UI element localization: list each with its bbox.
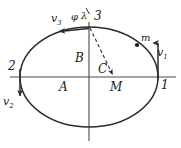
label-angle-phi: φ <box>71 12 78 22</box>
label-velocity-v1-sub: 1 <box>163 53 167 61</box>
label-point-b: B <box>75 52 84 64</box>
label-vertex-top: 3 <box>94 10 102 22</box>
orbit-diagram-canvas <box>0 0 181 148</box>
label-velocity-v3-sub: 3 <box>57 19 61 27</box>
label-point-c: C <box>98 63 107 75</box>
label-focus-m: M <box>110 81 122 93</box>
label-velocity-v3: v3 <box>51 13 62 27</box>
orbiting-body-dot <box>135 43 139 47</box>
label-velocity-v2: v2 <box>3 96 14 110</box>
label-body-m: m <box>141 33 150 43</box>
label-angle-lambda: λ <box>81 11 87 21</box>
label-velocity-v2-sub: 2 <box>9 102 13 110</box>
label-vertex-right: 1 <box>161 79 169 91</box>
label-point-a: A <box>59 81 68 93</box>
label-velocity-v1: v1 <box>157 47 168 61</box>
label-vertex-left: 2 <box>8 60 16 72</box>
orbit-diagram-figure: 1 2 3 A B C M m v1 v2 v3 φ λ <box>0 0 181 148</box>
